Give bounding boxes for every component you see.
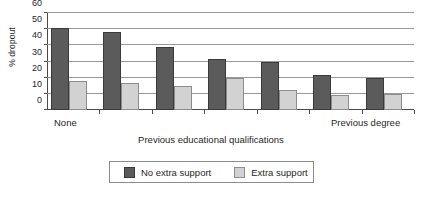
bar-group <box>152 13 204 110</box>
bar-no-extra-support <box>156 47 174 110</box>
bar-no-extra-support <box>103 32 121 110</box>
x-tick-mark <box>362 110 363 114</box>
x-axis-label-last: Previous degree <box>331 117 400 128</box>
bar-extra-support <box>279 90 297 110</box>
bar-no-extra-support <box>313 75 331 110</box>
x-tick-mark <box>414 110 415 114</box>
bar-group <box>99 13 151 110</box>
legend-swatch-icon <box>234 167 245 178</box>
bar-no-extra-support <box>51 28 69 110</box>
x-tick-mark <box>99 110 100 114</box>
legend-label: No extra support <box>141 167 211 178</box>
y-tick-label: 0 <box>37 95 42 105</box>
legend-item-no-extra-support: No extra support <box>124 167 211 178</box>
bar-no-extra-support <box>261 62 279 111</box>
y-tick-label: 20 <box>32 63 42 73</box>
bar-groups <box>47 13 414 110</box>
x-axis-label-first: None <box>54 117 77 128</box>
bar-extra-support <box>69 81 87 110</box>
bar-group <box>204 13 256 110</box>
bar-group <box>257 13 309 110</box>
y-tick-label: 50 <box>32 14 42 24</box>
bar-no-extra-support <box>208 59 226 110</box>
legend-swatch-icon <box>124 167 135 178</box>
bar-group <box>47 13 99 110</box>
bar-chart: % dropout 0102030405060 None Previous de… <box>0 0 422 197</box>
y-axis-title: % dropout <box>7 12 17 82</box>
chart-legend: No extra support Extra support <box>109 161 314 183</box>
y-tick-label: 40 <box>32 30 42 40</box>
x-axis-title: Previous educational qualifications <box>0 134 422 145</box>
bar-extra-support <box>384 94 402 110</box>
legend-label: Extra support <box>251 167 308 178</box>
legend-item-extra-support: Extra support <box>234 167 308 178</box>
bar-extra-support <box>331 95 349 110</box>
x-tick-mark <box>257 110 258 114</box>
bar-extra-support <box>226 78 244 110</box>
bar-extra-support <box>174 86 192 110</box>
plot-area: 0102030405060 <box>47 13 414 110</box>
x-tick-mark <box>152 110 153 114</box>
y-tick-label: 60 <box>32 0 42 8</box>
bar-no-extra-support <box>366 78 384 110</box>
x-tick-mark <box>309 110 310 114</box>
bar-group <box>362 13 414 110</box>
bar-extra-support <box>121 83 139 110</box>
bar-group <box>309 13 361 110</box>
x-tick-mark <box>204 110 205 114</box>
y-tick-label: 10 <box>32 79 42 89</box>
y-tick-label: 30 <box>32 47 42 57</box>
